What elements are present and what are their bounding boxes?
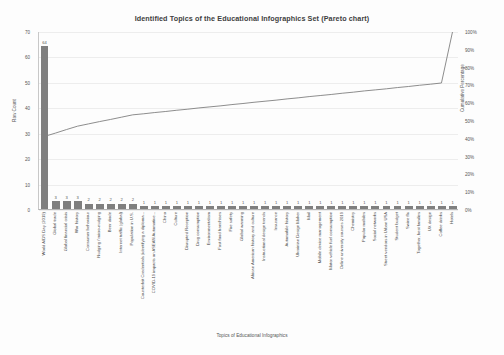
bar-slot[interactable]: 1	[359, 32, 370, 209]
bar-slot[interactable]: 2	[105, 32, 116, 209]
bar[interactable]	[151, 206, 159, 209]
bar-value-label: 2	[110, 197, 112, 202]
bar-slot[interactable]: 1	[436, 32, 447, 209]
bar[interactable]	[250, 206, 258, 209]
bar-slot[interactable]: 1	[238, 32, 249, 209]
bar-slot[interactable]: 1	[271, 32, 282, 209]
category-label: Population in U.S.	[130, 212, 134, 246]
bar-slot[interactable]: 1	[149, 32, 160, 209]
category-label: Fast food franchises	[218, 212, 222, 250]
bar[interactable]	[427, 206, 435, 209]
bar-value-label: 3	[54, 195, 56, 200]
bar[interactable]	[74, 201, 82, 209]
bar-value-label: 1	[341, 200, 343, 205]
bar-slot[interactable]: 1	[403, 32, 414, 209]
bar-slot[interactable]: 2	[83, 32, 94, 209]
bar[interactable]	[206, 206, 214, 209]
bar[interactable]	[338, 206, 346, 209]
bar-slot[interactable]: 1	[282, 32, 293, 209]
bar-slot[interactable]: 2	[127, 32, 138, 209]
category-label: Culture	[174, 212, 178, 226]
bar-slot[interactable]: 1	[249, 32, 260, 209]
bar[interactable]	[283, 206, 291, 209]
bar-slot[interactable]: 64	[39, 32, 50, 209]
bar-slot[interactable]: 2	[116, 32, 127, 209]
y-axis-left-tick: 10	[25, 182, 30, 187]
bar[interactable]	[327, 206, 335, 209]
bar-slot[interactable]: 1	[204, 32, 215, 209]
bar-value-label: 2	[132, 197, 134, 202]
category-slot: Street vendors in Urban USA	[380, 212, 391, 327]
chart-title: Identified Topics of the Educational Inf…	[0, 14, 504, 23]
category-slot: Student budget	[392, 212, 403, 327]
bar[interactable]	[118, 204, 126, 209]
bar-value-label: 2	[88, 197, 90, 202]
bar-slot[interactable]: 1	[370, 32, 381, 209]
bar-slot[interactable]: 1	[227, 32, 238, 209]
bar[interactable]	[394, 206, 402, 209]
bar-slot[interactable]: 1	[171, 32, 182, 209]
bar[interactable]	[228, 206, 236, 209]
bar[interactable]	[416, 206, 424, 209]
bar[interactable]	[63, 201, 71, 209]
bar-slot[interactable]: 3	[61, 32, 72, 209]
bar-slot[interactable]: 1	[160, 32, 171, 209]
y-axis-right-tick: 50%	[465, 119, 474, 124]
bar[interactable]	[349, 206, 357, 209]
bar[interactable]	[217, 206, 225, 209]
bar-slot[interactable]: 1	[182, 32, 193, 209]
bar[interactable]	[85, 204, 93, 209]
category-slot: COVID-19 impacts on ASEAN Automotive...	[148, 212, 159, 327]
plot-area: 643332222211111111111111111111111111111	[38, 32, 458, 210]
bar[interactable]	[184, 206, 192, 209]
category-slot: China	[160, 212, 171, 327]
bar-slot[interactable]: 1	[260, 32, 271, 209]
bar-slot[interactable]: 1	[193, 32, 204, 209]
bar[interactable]	[272, 206, 280, 209]
bar[interactable]	[438, 206, 446, 209]
bar-slot[interactable]: 1	[304, 32, 315, 209]
bar[interactable]	[305, 206, 313, 209]
bar[interactable]	[41, 46, 49, 209]
bar-slot[interactable]: 1	[425, 32, 436, 209]
bar[interactable]	[129, 204, 137, 209]
bar[interactable]	[239, 206, 247, 209]
bar[interactable]	[405, 206, 413, 209]
bar-slot[interactable]: 1	[381, 32, 392, 209]
bar[interactable]	[294, 206, 302, 209]
bar-slot[interactable]: 1	[447, 32, 458, 209]
bar-slot[interactable]: 1	[138, 32, 149, 209]
bar-slot[interactable]: 3	[72, 32, 83, 209]
bar-slot[interactable]: 1	[348, 32, 359, 209]
bar[interactable]	[261, 206, 269, 209]
category-label: Automobile history	[284, 212, 288, 246]
bar-slot[interactable]: 1	[392, 32, 403, 209]
bar[interactable]	[371, 206, 379, 209]
bar-slot[interactable]: 1	[216, 32, 227, 209]
category-label: COVID-19 impacts on ASEAN Automotive...	[152, 212, 156, 293]
bar-value-label: 1	[441, 200, 443, 205]
bar[interactable]	[107, 204, 115, 209]
bar[interactable]	[195, 206, 203, 209]
bar[interactable]	[383, 206, 391, 209]
category-label: Street vendors in Urban USA	[384, 212, 388, 266]
bar-slot[interactable]: 3	[50, 32, 61, 209]
bar[interactable]	[140, 206, 148, 209]
bar[interactable]	[173, 206, 181, 209]
bar-slot[interactable]: 1	[293, 32, 304, 209]
bar-slot[interactable]: 1	[315, 32, 326, 209]
category-label: Counterfeit Credentials (identifying a d…	[141, 212, 145, 299]
bar-slot[interactable]: 1	[326, 32, 337, 209]
bar[interactable]	[162, 206, 170, 209]
bar[interactable]	[360, 206, 368, 209]
bar[interactable]	[52, 201, 60, 209]
category-label: Online university courses 2019	[340, 212, 344, 269]
bar-slot[interactable]: 2	[94, 32, 105, 209]
bar-slot[interactable]: 1	[414, 32, 425, 209]
bar[interactable]	[449, 206, 457, 209]
bar[interactable]	[96, 204, 104, 209]
category-label: Student budget	[395, 212, 399, 240]
bar-slot[interactable]: 1	[337, 32, 348, 209]
bar[interactable]	[316, 206, 324, 209]
category-slot: Mail	[303, 212, 314, 327]
